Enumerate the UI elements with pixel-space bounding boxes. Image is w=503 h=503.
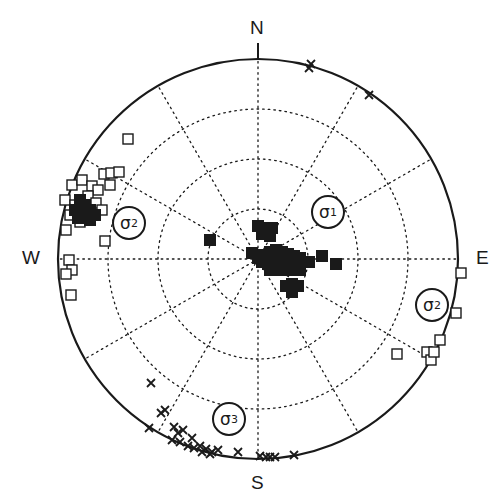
square-marker-dense — [265, 231, 276, 242]
square-marker — [67, 180, 77, 190]
square-marker-dense — [317, 251, 328, 262]
square-marker-dense — [331, 259, 342, 270]
square-marker — [61, 269, 71, 279]
square-marker — [451, 308, 461, 318]
square-marker-dense — [73, 213, 84, 224]
square-marker — [429, 347, 439, 357]
square-marker — [392, 349, 402, 359]
square-marker — [66, 290, 76, 300]
label-east: E — [476, 248, 489, 267]
grid-spoke — [85, 259, 258, 359]
square-marker — [456, 268, 466, 278]
cross-marker — [188, 434, 196, 442]
square-marker — [105, 180, 115, 190]
square-marker — [435, 335, 445, 345]
square-marker — [60, 195, 70, 205]
square-marker-dense — [304, 257, 315, 268]
label-north: N — [250, 18, 264, 37]
cross-marker — [147, 379, 155, 387]
stress-label-sigma1: σ1 — [311, 195, 345, 229]
cross-marker — [161, 406, 169, 414]
square-marker — [123, 134, 133, 144]
square-marker — [100, 236, 110, 246]
square-marker — [61, 225, 71, 235]
stress-label-sigma2-west: σ2 — [112, 206, 146, 240]
square-marker-dense — [90, 210, 101, 221]
stereonet-plot — [0, 0, 503, 503]
stress-label-sigma3: σ3 — [212, 402, 246, 436]
square-marker — [77, 175, 87, 185]
stress-label-sigma2-east: σ2 — [415, 288, 449, 322]
grid-spoke — [258, 259, 358, 432]
square-marker-dense — [205, 235, 216, 246]
cross-marker — [234, 448, 242, 456]
square-marker — [93, 185, 103, 195]
square-marker — [114, 167, 124, 177]
square-marker — [64, 255, 74, 265]
label-west: W — [22, 248, 40, 267]
square-marker-dense — [287, 287, 298, 298]
label-south: S — [251, 473, 264, 492]
grid-spoke — [158, 86, 258, 259]
